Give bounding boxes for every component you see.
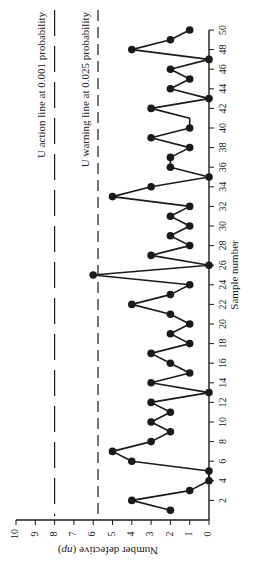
x-tick-label: 28 [217,241,228,251]
data-point [89,271,97,279]
y-tick-label: 2 [164,532,175,537]
data-point [186,369,194,377]
data-point [167,408,175,416]
x-tick-label: 44 [217,84,228,94]
x-tick-label: 50 [217,25,228,35]
data-point [167,428,175,436]
data-point [167,85,175,93]
y-tick-label: 10 [9,529,20,539]
x-tick-label: 12 [217,397,228,407]
data-point [147,134,155,142]
x-tick-label: 8 [217,439,228,444]
y-tick-label: 6 [86,532,97,537]
x-tick-label: 24 [217,280,228,290]
x-tick-label: 36 [217,162,228,172]
x-tick-label: 30 [217,221,228,231]
data-point [186,487,194,495]
data-point [186,281,194,289]
data-point [128,301,136,309]
data-point [147,183,155,191]
x-tick-label: 42 [217,103,228,113]
data-point [186,242,194,250]
x-tick-label: 10 [217,417,228,427]
y-tick-label: 5 [106,532,117,537]
data-point [167,310,175,318]
data-point [147,379,155,387]
data-point [128,46,136,54]
data-point [147,418,155,426]
data-point [205,477,213,485]
data-point [186,222,194,230]
y-tick-label: 3 [144,532,155,537]
data-point [186,75,194,83]
x-axis-label: Sample number [228,240,240,310]
data-point [167,36,175,44]
x-tick-label: 32 [217,201,228,211]
data-point [167,330,175,338]
data-point [205,173,213,181]
control-chart: 2468101214161820222426283032343638404244… [0,0,255,561]
data-point [167,291,175,299]
data-point [167,163,175,171]
data-point [186,203,194,211]
data-point [167,65,175,73]
data-point [186,320,194,328]
y-tick-label: 9 [29,532,40,537]
data-point [109,448,117,456]
x-tick-label: 2 [217,498,228,503]
data-point [147,105,155,113]
x-tick-label: 26 [217,260,228,270]
y-tick-label: 8 [48,532,59,537]
y-tick-label: 4 [125,532,136,537]
x-tick-label: 14 [217,378,228,388]
x-tick-label: 22 [217,299,228,309]
data-point [205,261,213,269]
data-point [205,389,213,397]
data-point [167,154,175,162]
data-point [147,399,155,407]
data-point [186,144,194,152]
data-point [186,340,194,348]
data-series [89,26,212,514]
y-axis-label: Number defective (np) [58,544,159,557]
y-tick-label: 0 [202,532,213,537]
y-tick-label: 1 [183,532,194,537]
x-tick-label: 6 [217,459,228,464]
data-point [167,359,175,367]
reference-lines: U action line at 0.001 probabilityU warn… [35,10,98,516]
data-point [147,350,155,358]
warning-line-label: U warning line at 0.025 probability [79,12,91,168]
data-point [186,124,194,132]
x-tick-label: 48 [217,45,228,55]
data-point [128,497,136,505]
x-tick-label: 20 [217,319,228,329]
data-point [205,467,213,475]
action-line-label: U action line at 0.001 probability [35,12,47,159]
data-point [147,438,155,446]
x-tick-label: 38 [217,143,228,153]
data-point [186,26,194,34]
data-point [205,95,213,103]
data-point [128,457,136,465]
y-tick-label: 7 [67,532,78,537]
x-tick-label: 4 [217,478,228,483]
data-point [147,252,155,260]
x-tick-label: 34 [217,182,228,192]
x-tick-label: 46 [217,64,228,74]
x-tick-label: 40 [217,123,228,133]
data-point [167,212,175,220]
data-point [167,506,175,514]
x-tick-label: 18 [217,339,228,349]
data-point [205,56,213,64]
data-point [167,232,175,240]
x-tick-label: 16 [217,358,228,368]
data-point [109,193,117,201]
